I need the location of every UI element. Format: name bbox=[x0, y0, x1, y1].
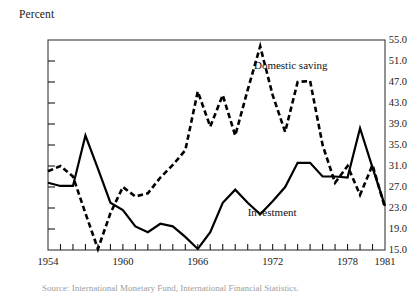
series-label-domestic-saving: Domestic saving bbox=[254, 59, 328, 71]
chart-figure: Percent 55.051.047.043.039.035.031.027.0… bbox=[0, 0, 407, 293]
series-lines bbox=[48, 46, 385, 249]
x-tick-marks bbox=[60, 244, 372, 250]
series-label-investment: Investment bbox=[248, 206, 297, 218]
plot-canvas bbox=[0, 0, 407, 293]
y-tick-marks bbox=[48, 61, 55, 229]
series-line-investment bbox=[48, 128, 385, 249]
source-note: Source: International Monetary Fund, Int… bbox=[42, 283, 299, 293]
